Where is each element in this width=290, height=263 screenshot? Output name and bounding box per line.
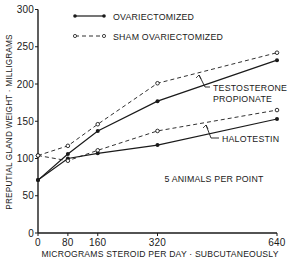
- annotation-animals-per-point: 5 ANIMALS PER POINT: [164, 174, 264, 184]
- legend-label: OVARIECTOMIZED: [113, 12, 194, 22]
- series-2: [36, 117, 279, 182]
- filled-dot-marker: [96, 129, 100, 133]
- line-chart: 050100150200250300080160320640MICROGRAMS…: [0, 0, 290, 263]
- y-tick-label: 300: [17, 4, 35, 15]
- x-axis-label: MICROGRAMS STEROID PER DAY · SUBCUTANEOU…: [41, 249, 278, 259]
- open-circle-marker: [96, 122, 100, 126]
- x-tick-label: 80: [62, 237, 74, 248]
- filled-dot-marker: [275, 117, 279, 121]
- filled-dot-marker: [156, 99, 160, 103]
- x-tick-label: 320: [149, 237, 167, 248]
- x-tick-label: 160: [89, 237, 107, 248]
- y-tick-label: 100: [17, 153, 35, 164]
- legend-filled-marker: [102, 14, 106, 18]
- y-tick-label: 250: [17, 41, 35, 52]
- filled-dot-marker: [36, 178, 40, 182]
- legend-filled-marker: [73, 14, 77, 18]
- open-circle-marker: [66, 144, 70, 148]
- x-tick-label: 640: [268, 237, 286, 248]
- annotation-propionate: PROPIONATE: [213, 94, 272, 104]
- open-circle-marker: [275, 51, 279, 55]
- data-series: [36, 51, 279, 182]
- open-circle-marker: [66, 159, 70, 163]
- axes: 050100150200250300080160320640MICROGRAMS…: [5, 4, 286, 259]
- y-axis-label: PREPUTIAL GLAND WEIGHT · MILLIGRAMS: [5, 34, 14, 210]
- annotation-halotestin: HALOTESTIN: [222, 134, 279, 144]
- y-tick-label: 150: [17, 116, 35, 127]
- annotations: TESTOSTERONEPROPIONATEHALOTESTIN5 ANIMAL…: [164, 75, 287, 184]
- tp-leader-line: [199, 75, 210, 87]
- legend: OVARIECTOMIZEDSHAM OVARIECTOMIZED: [73, 12, 223, 42]
- x-tick-label: 0: [35, 237, 41, 248]
- filled-dot-marker: [275, 58, 279, 62]
- open-circle-marker: [156, 129, 160, 133]
- legend-label: SHAM OVARIECTOMIZED: [113, 32, 223, 42]
- open-circle-marker: [156, 81, 160, 85]
- open-circle-marker: [36, 154, 40, 158]
- y-tick-label: 200: [17, 79, 35, 90]
- legend-open-marker: [102, 34, 105, 37]
- filled-dot-marker: [66, 152, 70, 156]
- annotation-testosterone: TESTOSTERONE: [213, 83, 287, 93]
- solid-line: [38, 60, 277, 180]
- y-tick-label: 0: [28, 228, 34, 239]
- legend-open-marker: [73, 34, 76, 37]
- filled-dot-marker: [156, 143, 160, 147]
- open-circle-marker: [96, 149, 100, 153]
- series-0: [36, 58, 279, 182]
- open-circle-marker: [275, 108, 279, 112]
- y-tick-label: 50: [22, 190, 34, 201]
